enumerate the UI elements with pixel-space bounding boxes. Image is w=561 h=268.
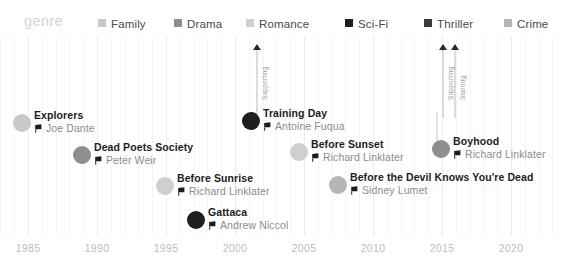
event-dot-dead-poets-society[interactable] — [73, 146, 91, 164]
legend-title: genre — [24, 13, 63, 29]
director-chair-icon — [94, 155, 103, 164]
event-dot-explorers[interactable] — [13, 114, 31, 132]
event-title: Explorers — [34, 109, 95, 121]
event-dot-before-the-devil-knows-youre-dead[interactable] — [329, 176, 347, 194]
legend-swatch-icon — [504, 19, 512, 27]
legend-swatch-icon — [246, 19, 254, 27]
event-director: Peter Weir — [94, 154, 193, 167]
event-director: Richard Linklater — [453, 148, 546, 161]
event-title: Training Day — [263, 107, 345, 119]
gridline — [180, 36, 181, 236]
event-dot-boyhood[interactable] — [432, 140, 450, 158]
gridline — [83, 36, 84, 236]
gridline — [401, 36, 402, 236]
event-label-boyhood[interactable]: BoyhoodRichard Linklater — [453, 135, 546, 161]
event-director-name: Andrew Niccol — [220, 219, 288, 231]
annotation-boyhood-role-1: Supporting — [437, 44, 449, 124]
event-director-name: Richard Linklater — [323, 151, 404, 163]
axis-tick-1985: 1985 — [16, 242, 41, 254]
legend-item-drama[interactable]: Drama — [174, 14, 222, 28]
director-chair-icon — [208, 220, 217, 229]
director-chair-icon — [350, 185, 359, 194]
gridline — [125, 36, 126, 236]
gridline — [373, 36, 374, 236]
gridline — [332, 36, 333, 236]
gridline — [290, 36, 291, 236]
director-chair-icon — [263, 121, 272, 130]
annotation-stem — [257, 50, 258, 118]
event-dot-training-day[interactable] — [242, 112, 260, 130]
event-director-name: Richard Linklater — [465, 148, 546, 160]
event-label-explorers[interactable]: ExplorersJoe Dante — [34, 109, 95, 135]
event-title: Before Sunrise — [177, 172, 270, 184]
legend-item-label: Drama — [187, 18, 222, 30]
director-chair-icon — [453, 149, 462, 158]
gridline — [428, 36, 429, 236]
annotation-boyhood-role-2: Starring — [449, 44, 461, 124]
axis-tick-1995: 1995 — [154, 242, 179, 254]
axis-tick-2010: 2010 — [361, 242, 386, 254]
event-director-name: Peter Weir — [106, 154, 156, 166]
gridline — [152, 36, 153, 236]
event-dot-gattaca[interactable] — [187, 211, 205, 229]
gridline — [345, 36, 346, 236]
annotation-label: Supporting — [261, 67, 268, 100]
legend-item-family[interactable]: Family — [98, 14, 146, 28]
event-director-name: Joe Dante — [46, 122, 95, 134]
event-label-gattaca[interactable]: GattacaAndrew Niccol — [208, 206, 288, 232]
gridline — [111, 36, 112, 236]
annotation-label: Starring — [459, 76, 466, 100]
event-dot-before-sunset[interactable] — [290, 143, 308, 161]
event-title: Before the Devil Knows You're Dead — [350, 171, 533, 183]
gridline — [387, 36, 388, 236]
event-label-before-sunrise[interactable]: Before SunriseRichard Linklater — [177, 172, 270, 198]
legend-item-label: Sci-Fi — [358, 18, 388, 30]
event-director: Antoine Fuqua — [263, 120, 345, 133]
axis-tick-2015: 2015 — [430, 242, 455, 254]
event-label-before-sunset[interactable]: Before SunsetRichard Linklater — [311, 138, 404, 164]
axis-tick-2020: 2020 — [499, 242, 524, 254]
event-director-name: Antoine Fuqua — [275, 120, 345, 132]
x-axis: 19851990199520002005201020152020 — [0, 236, 561, 268]
axis-tick-2005: 2005 — [292, 242, 317, 254]
event-title: Boyhood — [453, 135, 546, 147]
event-label-training-day[interactable]: Training DayAntoine Fuqua — [263, 107, 345, 133]
gridline — [304, 36, 305, 236]
gridline — [56, 36, 57, 236]
event-label-before-the-devil-knows-youre-dead[interactable]: Before the Devil Knows You're DeadSidney… — [350, 171, 533, 197]
gridline — [359, 36, 360, 236]
gridline — [138, 36, 139, 236]
event-dot-before-sunrise[interactable] — [156, 177, 174, 195]
event-director-name: Richard Linklater — [189, 185, 270, 197]
gridline — [318, 36, 319, 236]
event-title: Before Sunset — [311, 138, 404, 150]
gridline — [552, 36, 553, 236]
plot-area: SupportingSupportingStarringExplorersJoe… — [0, 36, 561, 236]
event-director: Sidney Lumet — [350, 184, 533, 197]
director-chair-icon — [311, 152, 320, 161]
gridline — [166, 36, 167, 236]
legend-swatch-icon — [98, 19, 106, 27]
legend-item-crime[interactable]: Crime — [504, 14, 548, 28]
legend-item-romance[interactable]: Romance — [246, 14, 309, 28]
legend-item-label: Romance — [259, 18, 309, 30]
event-label-dead-poets-society[interactable]: Dead Poets SocietyPeter Weir — [94, 141, 193, 167]
gridline — [0, 36, 1, 236]
gridline — [28, 36, 29, 236]
director-chair-icon — [34, 123, 43, 132]
event-director-name: Sidney Lumet — [362, 184, 427, 196]
annotation-stem — [443, 50, 444, 118]
legend-swatch-icon — [174, 19, 182, 27]
event-title: Gattaca — [208, 206, 288, 218]
axis-tick-1990: 1990 — [85, 242, 110, 254]
legend-swatch-icon — [424, 19, 432, 27]
gridline — [14, 36, 15, 236]
gridline — [42, 36, 43, 236]
timeline-chart: genre FamilyDramaRomanceSci-FiThrillerCr… — [0, 0, 561, 268]
gridline — [69, 36, 70, 236]
legend-item-sci-fi[interactable]: Sci-Fi — [345, 14, 388, 28]
director-chair-icon — [177, 186, 186, 195]
annotation-stem — [455, 50, 456, 118]
legend-item-label: Thriller — [437, 18, 473, 30]
legend-item-thriller[interactable]: Thriller — [424, 14, 473, 28]
